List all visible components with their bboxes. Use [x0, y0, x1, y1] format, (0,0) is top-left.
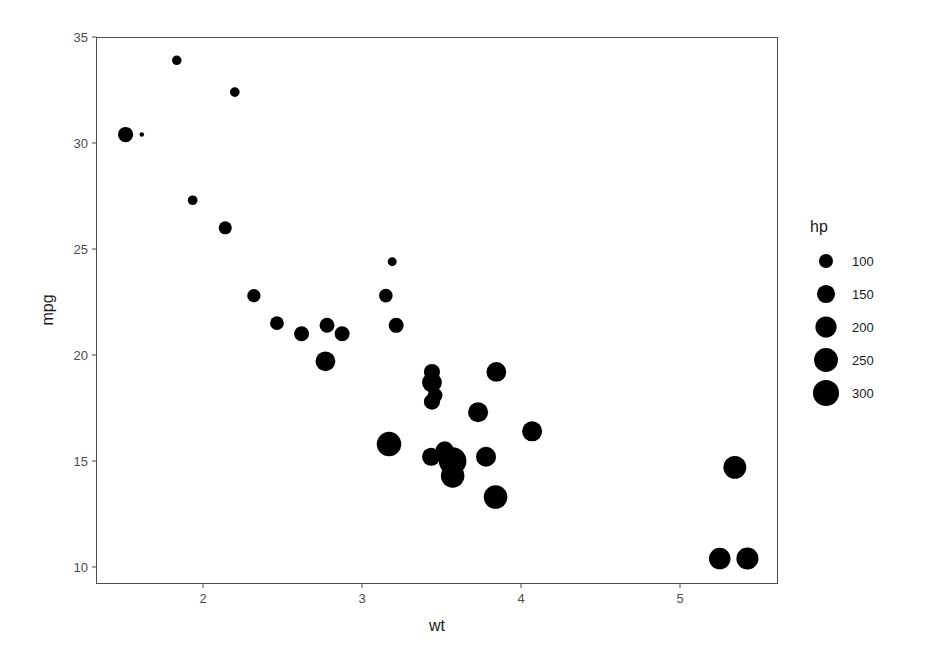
x-tick-label: 4 — [517, 591, 524, 606]
data-point — [468, 402, 488, 422]
y-tick-label: 20 — [74, 348, 88, 363]
data-point — [439, 447, 467, 475]
legend-key-circle — [814, 348, 838, 372]
legend-key-circle — [815, 316, 836, 337]
data-point — [270, 316, 284, 330]
y-tick-label: 25 — [74, 242, 88, 257]
data-point — [316, 351, 336, 371]
data-point — [294, 326, 309, 341]
data-point — [422, 448, 440, 466]
x-tick-label: 3 — [358, 591, 365, 606]
y-axis: 101520253035 — [74, 30, 97, 575]
data-point — [247, 289, 260, 302]
x-tick-label: 2 — [199, 591, 206, 606]
legend-label: 200 — [852, 320, 874, 335]
y-axis-title: mpg — [39, 294, 56, 325]
x-axis: 2345 — [199, 584, 683, 606]
data-point — [118, 127, 133, 142]
data-point — [709, 548, 731, 570]
x-tick-label: 5 — [676, 591, 683, 606]
size-legend: hp 100150200250300 — [810, 218, 874, 406]
data-point — [230, 87, 240, 97]
data-point — [476, 447, 496, 467]
data-point — [320, 318, 335, 333]
data-point — [486, 362, 506, 382]
y-tick-label: 10 — [74, 560, 88, 575]
data-point — [388, 257, 397, 266]
legend-label: 250 — [852, 353, 874, 368]
data-point — [736, 547, 758, 569]
legend-entries: 100150200250300 — [813, 254, 874, 406]
legend-label: 300 — [852, 386, 874, 401]
data-point — [484, 485, 508, 509]
legend-label: 150 — [852, 287, 874, 302]
data-point — [172, 56, 182, 66]
y-tick-label: 35 — [74, 30, 88, 45]
data-point — [723, 456, 746, 479]
data-point — [335, 326, 350, 341]
data-point — [377, 432, 402, 457]
legend-title: hp — [810, 218, 828, 235]
data-point — [424, 394, 440, 410]
scatter-chart: 2345 101520253035 wt mpg hp 100150200250… — [0, 0, 925, 660]
data-point — [522, 421, 542, 441]
data-point — [139, 132, 144, 137]
y-tick-label: 30 — [74, 136, 88, 151]
legend-label: 100 — [852, 254, 874, 269]
data-point — [379, 289, 393, 303]
legend-key-circle — [817, 285, 835, 303]
plot-panel — [97, 38, 778, 584]
data-point — [219, 221, 232, 234]
x-axis-title: wt — [428, 617, 446, 634]
legend-key-circle — [813, 380, 839, 406]
y-tick-label: 15 — [74, 454, 88, 469]
data-point — [424, 364, 440, 380]
data-points — [118, 56, 759, 570]
data-point — [188, 195, 198, 205]
legend-key-circle — [819, 254, 833, 268]
data-point — [389, 318, 404, 333]
